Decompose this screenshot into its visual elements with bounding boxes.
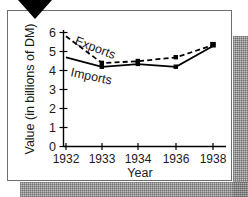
down-triangle-marker-icon xyxy=(18,0,52,19)
card-shadow-bottom xyxy=(20,182,248,197)
figure-container: 0 1 2 3 4 5 6 1932 1933 1934 1936 1938 Y… xyxy=(0,0,248,197)
chart-card xyxy=(7,10,232,181)
card-shadow-right xyxy=(233,36,248,197)
